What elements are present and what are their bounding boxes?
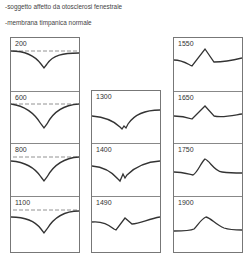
tympanogram-curve: [174, 92, 242, 144]
tympanogram-curve: [174, 144, 242, 197]
caption-subject: -soggetto affetto da otosclerosi fenestr…: [5, 3, 122, 10]
tympanogram-curve: [92, 144, 160, 197]
tympanogram-panel-1100: 1100: [11, 196, 79, 253]
tympanogram-panel-1650: 1650: [174, 91, 242, 143]
column-left: 200 600 800 1100: [10, 37, 80, 253]
tympanogram-panel-1400: 1400: [92, 143, 160, 196]
tympanogram-panel-600: 600: [11, 91, 79, 143]
tympanogram-panel-1750: 1750: [174, 143, 242, 196]
tympanogram-panel-200: 200: [11, 38, 79, 91]
tympanogram-curve: [174, 197, 242, 254]
tympanogram-panel-1550: 1550: [174, 38, 242, 91]
column-right: 1550 1650 1750 1900: [173, 37, 243, 253]
tympanogram-panel-1300: 1300: [92, 91, 160, 143]
tympanogram-panel-1490: 1490: [92, 196, 160, 252]
tympanogram-curve: [11, 144, 79, 197]
tympanogram-curve: [92, 91, 160, 143]
tympanogram-curve: [174, 38, 242, 91]
tympanogram-panel-800: 800: [11, 143, 79, 196]
tympanogram-curve: [11, 92, 79, 144]
column-middle: 1300 1400 1490: [91, 90, 161, 253]
tympanogram-curve: [11, 38, 79, 91]
tympanogram-panel-1900: 1900: [174, 196, 242, 253]
tympanogram-curve: [11, 197, 79, 254]
tympanogram-curve: [92, 197, 160, 253]
caption-membrane: -membrana timpanica normale: [5, 19, 92, 26]
